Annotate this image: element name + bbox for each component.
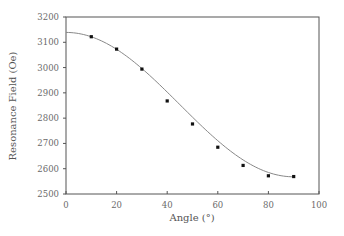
data-points bbox=[90, 35, 296, 178]
data-point bbox=[166, 99, 169, 102]
y-tick-label: 3000 bbox=[37, 63, 59, 73]
x-tick-label: 20 bbox=[111, 200, 122, 210]
data-point bbox=[267, 174, 270, 177]
x-axis-title: Angle (°) bbox=[168, 212, 214, 223]
x-tick-label: 60 bbox=[212, 200, 223, 210]
y-tick-label: 3200 bbox=[37, 12, 59, 22]
plot-frame bbox=[66, 17, 319, 194]
y-tick-label: 2600 bbox=[37, 164, 59, 174]
x-tick-label: 80 bbox=[263, 200, 274, 210]
y-tick-label: 2900 bbox=[37, 88, 59, 98]
x-tick-label: 0 bbox=[63, 200, 68, 210]
data-point bbox=[216, 146, 219, 149]
fit-curve bbox=[66, 32, 294, 176]
x-tick-label: 40 bbox=[162, 200, 173, 210]
y-tick-label: 2500 bbox=[37, 189, 59, 199]
resonance-field-chart: 25002600270028002900300031003200 0204060… bbox=[0, 0, 344, 236]
y-axis-ticks: 25002600270028002900300031003200 bbox=[37, 12, 66, 199]
x-tick-label: 100 bbox=[311, 200, 327, 210]
y-tick-label: 3100 bbox=[37, 37, 59, 47]
data-point bbox=[90, 35, 93, 38]
y-tick-label: 2700 bbox=[37, 138, 59, 148]
y-axis-title: Resonance Field (Oe) bbox=[7, 51, 18, 160]
y-tick-label: 2800 bbox=[37, 113, 59, 123]
data-point bbox=[115, 48, 118, 51]
data-point bbox=[191, 122, 194, 125]
data-point bbox=[242, 164, 245, 167]
data-point bbox=[292, 175, 295, 178]
data-point bbox=[140, 67, 143, 70]
